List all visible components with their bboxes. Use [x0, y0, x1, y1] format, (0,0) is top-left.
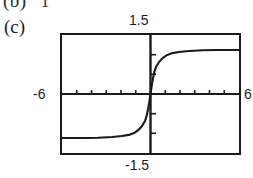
previous-part-label: (b)1	[3, 0, 50, 12]
window-xmax-label: 6	[244, 87, 252, 102]
calculator-screen-plot-area	[62, 35, 239, 153]
window-ymin-label: -1.5	[125, 158, 149, 173]
window-ymax-label: 1.5	[129, 13, 148, 28]
part-label-c: (c)	[4, 16, 25, 38]
calculator-screen	[60, 33, 241, 155]
window-xmin-label: -6	[33, 87, 45, 102]
previous-part-letter: (b)	[3, 0, 27, 11]
previous-part-value: 1	[41, 0, 50, 11]
graphing-calculator-figure: (b)1 (c)	[0, 0, 253, 178]
plot-svg	[62, 35, 239, 153]
